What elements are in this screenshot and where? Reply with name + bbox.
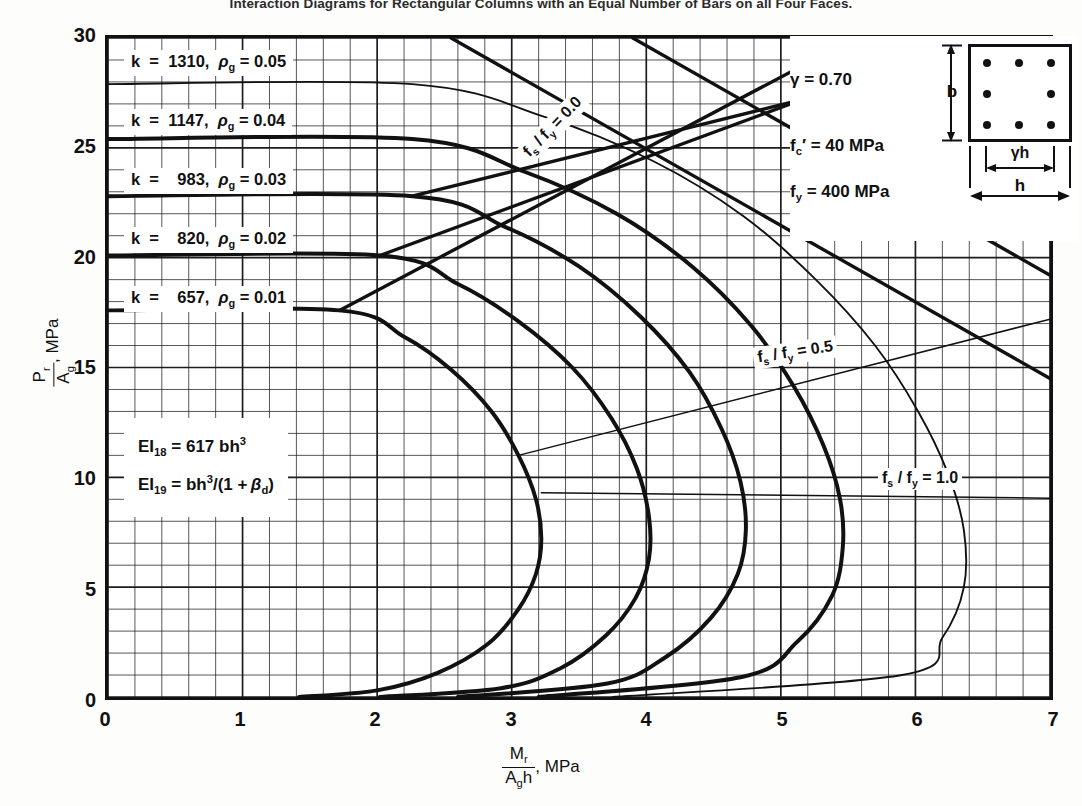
y-axis-fraction: Pr Ag: [31, 363, 76, 387]
x-tick-3: 3: [491, 708, 531, 731]
x-tick-0: 0: [85, 708, 125, 731]
column-interaction-figure: Interaction Diagrams for Rectangular Col…: [0, 0, 1082, 806]
x-axis-numerator: Mr: [502, 745, 535, 768]
gamma-h-label: γh: [986, 144, 1054, 162]
x-tick-7: 7: [1033, 708, 1073, 731]
x-tick-6: 6: [897, 708, 937, 731]
y-tick-10: 10: [52, 467, 96, 490]
y-tick-5: 5: [52, 578, 96, 601]
b-dimension-label: b: [940, 82, 964, 102]
rebar-dot: [1047, 59, 1055, 67]
rebar-dot: [1015, 59, 1023, 67]
rebar-dot: [1047, 90, 1055, 98]
x-tick-4: 4: [626, 708, 666, 731]
y-axis-unit: , MPa: [43, 319, 62, 363]
fs-fy-label-10: fs / fy = 1.0: [878, 468, 962, 490]
legend-fy: fy = 400 MPa: [790, 182, 950, 203]
rebar-dot: [983, 90, 991, 98]
curve-label-rho-001: k = 657, ρg = 0.01: [124, 286, 293, 312]
ei-note-19-tail: /(1 + βd): [213, 475, 274, 494]
y-tick-25: 25: [52, 135, 96, 158]
rebar-dot: [1047, 121, 1055, 129]
curve-label-rho-005: k = 1310, ρg = 0.05: [124, 50, 293, 76]
y-tick-30: 30: [52, 24, 96, 47]
y-axis-denominator: Ag: [55, 363, 77, 387]
x-axis-fraction: Mr Agh: [502, 745, 535, 790]
curve-label-rho-002: k = 820, ρg = 0.02: [124, 227, 293, 253]
legend-panel: γ = 0.70 fc′ = 40 MPa fy = 400 MPa b: [790, 36, 1078, 241]
rebar-dot: [1015, 121, 1023, 129]
ei-note-19: EI19 = bh3/(1 + βd): [138, 466, 274, 504]
column-cross-section: [968, 44, 1072, 142]
ei-notes-box: EI18 = 617 bh3 EI19 = bh3/(1 + βd): [124, 418, 288, 517]
ei-note-18: EI18 = 617 bh3: [138, 428, 274, 466]
x-axis-label: Mr Agh , MPa: [0, 745, 1082, 790]
y-axis-numerator: Pr: [31, 363, 54, 387]
x-tick-1: 1: [220, 708, 260, 731]
figure-title: Interaction Diagrams for Rectangular Col…: [0, 0, 1082, 12]
x-tick-5: 5: [762, 708, 802, 731]
x-tick-2: 2: [355, 708, 395, 731]
x-axis-denominator: Agh: [502, 768, 535, 790]
h-label: h: [968, 176, 1072, 196]
curve-label-rho-004: k = 1147, ρg = 0.04: [124, 109, 292, 135]
x-axis-unit: , MPa: [535, 757, 579, 776]
legend-fc: fc′ = 40 MPa: [790, 136, 950, 157]
rebar-dot: [983, 121, 991, 129]
legend-gamma: γ = 0.70: [790, 70, 950, 90]
rebar-dot: [983, 59, 991, 67]
curve-label-rho-003: k = 983, ρg = 0.03: [124, 168, 293, 194]
y-tick-20: 20: [52, 246, 96, 269]
y-axis-label: Pr Ag , MPa: [31, 293, 76, 413]
